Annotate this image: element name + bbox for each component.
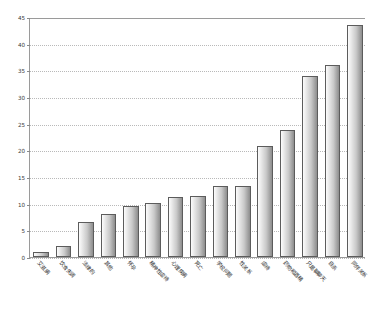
bar[interactable]: [33, 252, 49, 257]
y-tick-label: 25: [18, 122, 25, 128]
y-tick-label: 5: [21, 228, 25, 234]
bar[interactable]: [302, 76, 318, 257]
y-tick-label: 30: [18, 95, 25, 101]
x-axis-tick-label: 其他: [102, 259, 115, 272]
x-axis-tick-label: 同伴关系: [349, 259, 369, 279]
bar[interactable]: [168, 197, 184, 257]
y-tick-label: 10: [18, 202, 25, 208]
y-tick-label: 45: [18, 15, 25, 21]
y-tick-label: 40: [18, 42, 25, 48]
bar[interactable]: [190, 196, 206, 257]
x-axis-tick-label: 怀孕: [125, 259, 138, 272]
x-axis-labels: 艾滋病饮食失调法律的其他怀孕精神性虐待心理疾病死亡学校问题性关系虐待药物和酒精只…: [29, 259, 365, 318]
bar[interactable]: [56, 246, 72, 257]
bar[interactable]: [280, 130, 296, 257]
x-axis-tick-label: 药物和酒精: [282, 259, 305, 283]
bar[interactable]: [145, 203, 161, 257]
bar[interactable]: [123, 206, 139, 257]
bar[interactable]: [213, 186, 229, 257]
y-tick-label: 20: [18, 148, 25, 154]
bar[interactable]: [257, 146, 273, 257]
x-axis-tick-label: 精神性虐待: [147, 259, 170, 283]
bar[interactable]: [325, 65, 341, 257]
x-axis-tick-label: 艾滋病: [35, 259, 51, 276]
y-tick-label: 15: [18, 175, 25, 181]
y-tick-label: 35: [18, 68, 25, 74]
x-axis-tick-label: 学校问题: [214, 259, 234, 279]
bar[interactable]: [347, 25, 363, 257]
x-axis-tick-label: 心理疾病: [170, 259, 190, 279]
bar[interactable]: [235, 186, 251, 257]
bar-series: [30, 18, 365, 257]
bar[interactable]: [101, 214, 117, 257]
x-axis-tick-label: 死亡: [192, 259, 205, 272]
x-axis-tick-label: 虐待: [259, 259, 272, 272]
bar-chart: 热线中呼叫者所提问题的百分比 051015202530354045 艾滋病饮食失…: [0, 0, 369, 318]
x-axis-tick-label: 法律的: [80, 259, 96, 276]
bar[interactable]: [78, 222, 94, 257]
x-axis-tick-label: 只是聊聊天: [304, 259, 327, 283]
y-tick-label: 0: [21, 255, 25, 261]
x-axis-tick-label: 自杀: [326, 259, 339, 272]
x-axis-tick-label: 饮食失调: [58, 259, 78, 279]
x-axis-tick-label: 性关系: [237, 259, 253, 276]
plot-area: 051015202530354045: [29, 18, 365, 258]
